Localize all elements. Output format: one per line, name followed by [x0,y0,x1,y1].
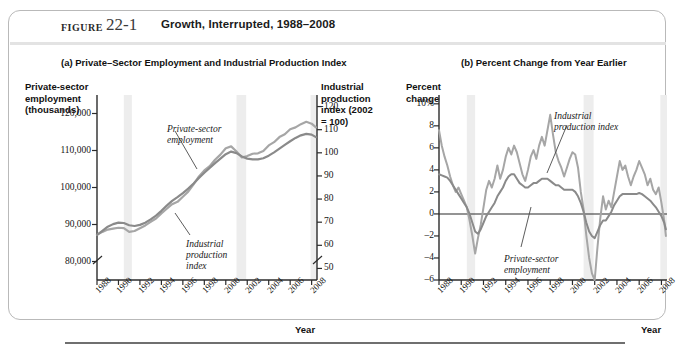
annotation-line: Industrial [554,111,618,122]
annotation-line: Private-sector [167,124,221,135]
y-tick-label: 6 [401,142,434,152]
axis-title-line: Percent [406,81,441,93]
y-tick-label: –6 [401,274,434,284]
header-divider [10,42,666,45]
panel-b-employment-annotation: Private-sector employment [504,254,558,276]
y-tick-label-right: 50 [324,262,334,272]
y-tick-label: 4 [401,164,434,174]
y-tick-label-right: 120 [324,101,338,111]
y-tick-label-right: 100 [324,147,338,157]
y-tick-label: 0 [401,208,434,218]
y-tick-label: –4 [401,252,434,262]
axis-title-line: Private-sector [25,81,88,93]
y-tick-label-left: 90,000 [29,219,91,229]
annotation-line: production index [554,122,618,133]
y-tick-label-left: 100,000 [29,182,91,192]
annotation-leader-line [175,213,190,235]
y-tick-label-left: 80,000 [29,256,91,266]
y-tick-label: –2 [401,230,434,240]
annotation-line: Industrial [186,239,227,250]
figure-title: Growth, Interrupted, 1988–2008 [161,18,335,30]
panel-b-ipi-annotation: Industrial production index [554,111,618,133]
annotation-line: index [186,261,227,272]
panel-b-title: (b) Percent Change from Year Earlier [461,57,627,68]
recession-band [660,95,667,280]
figure-card: FIGURE 22-1 Growth, Interrupted, 1988–20… [8,10,666,320]
y-tick-label-left: 110,000 [29,145,91,155]
panel-a-employment-annotation: Private-sector employment [167,124,221,146]
axis-title-line: employment [25,93,88,105]
y-tick-label: 10% [401,98,434,108]
panel-a-title: (a) Private–Sector Employment and Indust… [61,57,347,68]
y-tick-label-right: 70 [324,216,334,226]
y-tick-label: 8 [401,120,434,130]
panel-a-ipi-annotation: Industrial production index [186,239,227,272]
annotation-line: Private-sector [504,254,558,265]
panel-b-x-axis-title: Year [641,324,661,335]
y-tick-label-right: 80 [324,193,334,203]
annotation-leader-line [521,207,531,247]
y-tick-label: 2 [401,186,434,196]
panel-a-x-axis-title: Year [295,324,315,335]
annotation-line: production [186,250,227,261]
recession-band [467,95,475,280]
annotation-line: employment [167,135,221,146]
annotation-line: employment [504,265,558,276]
y-tick-label-right: 110 [324,124,338,134]
figure-header: FIGURE 22-1 Growth, Interrupted, 1988–20… [9,11,665,43]
axis-title-line: Industrial [321,81,373,93]
figure-number: 22-1 [106,15,137,35]
recession-band [124,95,132,280]
y-tick-label-right: 90 [324,170,334,180]
y-tick-label-left: 120,000 [29,108,91,118]
recession-band [237,95,247,280]
figure-label: FIGURE [61,22,103,33]
y-tick-label-right: 60 [324,239,334,249]
